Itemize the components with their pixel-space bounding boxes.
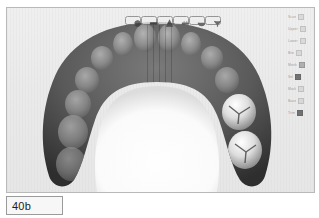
side-panel-row[interactable]: Sel (286, 72, 312, 81)
side-panel-row[interactable]: Upper (286, 24, 312, 33)
occlusion-icon[interactable] (189, 16, 205, 25)
side-panel-label: Sel (288, 75, 293, 79)
color-swatch[interactable] (300, 38, 306, 44)
side-panel-label: Trim (288, 111, 295, 115)
side-panel-label: Scan (288, 15, 296, 19)
side-panel-label: Lower (288, 39, 298, 43)
side-panel-row[interactable]: Base (286, 96, 312, 105)
dental-arch-model[interactable] (7, 8, 314, 192)
side-panel-label: Upper (288, 27, 298, 31)
side-panel-row[interactable]: Bite (286, 48, 312, 57)
trim-icon[interactable] (205, 16, 221, 25)
side-panel-label: Base (288, 99, 296, 103)
color-swatch[interactable] (300, 26, 306, 32)
pan-icon[interactable] (141, 16, 157, 25)
color-swatch[interactable] (296, 50, 302, 56)
figure-label: 40b (7, 200, 31, 212)
side-panel-row[interactable]: Mark (286, 84, 312, 93)
figure-label-box: 40b (6, 196, 63, 215)
color-swatch[interactable] (295, 74, 301, 80)
screenshot-viewport: Scan Upper Lower Bite Mesh Sel (6, 7, 315, 193)
side-panel-label: Mesh (288, 63, 297, 67)
measure-icon[interactable] (157, 16, 173, 25)
rotate-icon[interactable] (125, 16, 141, 25)
side-panel-label: Mark (288, 87, 296, 91)
color-swatch[interactable] (298, 86, 304, 92)
color-swatch[interactable] (298, 98, 304, 104)
ruler-icon[interactable] (173, 16, 189, 25)
side-panel-row[interactable]: Scan (286, 12, 312, 21)
side-panel-row[interactable]: Trim (286, 108, 312, 117)
side-panel-row[interactable]: Mesh (286, 60, 312, 69)
side-panel: Scan Upper Lower Bite Mesh Sel (286, 12, 312, 104)
side-panel-row[interactable]: Lower (286, 36, 312, 45)
figure-plate: Scan Upper Lower Bite Mesh Sel (0, 0, 319, 218)
color-swatch[interactable] (297, 110, 303, 116)
color-swatch[interactable] (298, 14, 304, 20)
color-swatch[interactable] (299, 62, 305, 68)
model-toolbar (125, 14, 211, 26)
side-panel-label: Bite (288, 51, 294, 55)
